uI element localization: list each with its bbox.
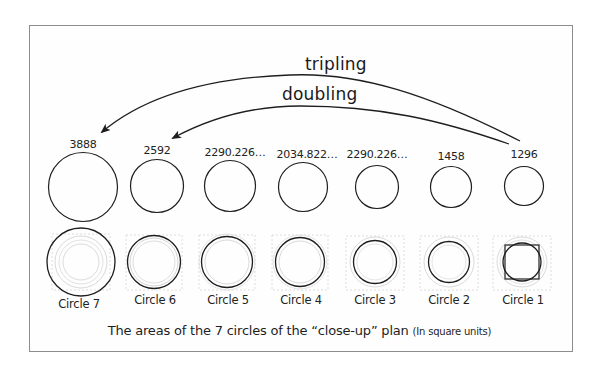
area-value-circle-7: 3888 — [70, 138, 97, 151]
area-value-circle-4: 2034.822… — [277, 148, 338, 161]
circle-7-outline — [49, 153, 118, 222]
circle-3-outline — [356, 166, 399, 209]
circle-2-outline — [431, 167, 472, 208]
thumbnail-circle-3 — [346, 236, 404, 290]
name-circle-1: Circle 1 — [502, 293, 544, 307]
area-circles-row — [49, 153, 544, 222]
name-circle-7: Circle 7 — [58, 297, 100, 311]
inscribing-square — [505, 245, 539, 279]
area-value-circle-6: 2592 — [144, 144, 171, 157]
area-value-circle-5: 2290.226… — [205, 146, 266, 159]
figure-caption: The areas of the 7 circles of the “close… — [0, 323, 599, 338]
name-circle-3: Circle 3 — [354, 293, 396, 307]
circle-6-outline — [131, 160, 184, 213]
diagram-canvas — [0, 0, 599, 376]
name-circle-5: Circle 5 — [207, 293, 249, 307]
doubling-label: doubling — [282, 84, 357, 104]
plan-thumbnails-row — [47, 228, 551, 296]
tripling-label: tripling — [305, 54, 367, 74]
caption-units-note: (In square units) — [413, 326, 492, 337]
thumbnail-circle-2 — [420, 236, 478, 290]
name-circle-2: Circle 2 — [428, 293, 470, 307]
caption-main: The areas of the 7 circles of the “close… — [108, 323, 409, 338]
thumbnail-circle-6 — [126, 235, 182, 290]
thumbnail-circle-7 — [47, 228, 115, 296]
circle-5-outline — [205, 161, 256, 212]
thumbnail-circle-1 — [493, 236, 551, 290]
thumbnail-circle-5 — [199, 234, 255, 290]
thumbnail-circle-4 — [272, 235, 328, 290]
name-circle-4: Circle 4 — [280, 293, 322, 307]
circle-4-outline — [279, 163, 328, 212]
name-circle-6: Circle 6 — [134, 293, 176, 307]
circle-1-outline — [505, 167, 544, 206]
area-value-circle-3: 2290.226… — [347, 148, 408, 161]
area-value-circle-2: 1458 — [438, 150, 465, 163]
area-value-circle-1: 1296 — [511, 148, 538, 161]
